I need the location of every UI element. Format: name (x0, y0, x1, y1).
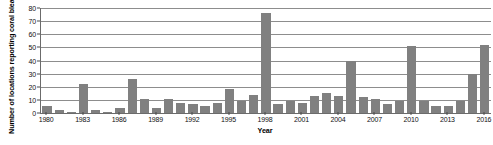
bar-slot (163, 8, 175, 113)
bar (346, 61, 355, 114)
bar (383, 104, 392, 113)
bar (200, 106, 209, 113)
bar-slot (199, 8, 211, 113)
bar-slot (442, 8, 454, 113)
bar (213, 103, 222, 114)
bar-slot (479, 8, 491, 113)
bar (431, 106, 440, 113)
y-tick-label: 60 (29, 31, 36, 38)
bar (103, 112, 112, 113)
bar-slot (187, 8, 199, 113)
bar (79, 84, 88, 113)
bar (249, 95, 258, 113)
bar-slot (454, 8, 466, 113)
bar (395, 101, 404, 113)
x-tick-label: 2001 (294, 116, 309, 123)
bar (419, 101, 428, 113)
bar-slot (77, 8, 89, 113)
bar-slot (430, 8, 442, 113)
bar-slot (406, 8, 418, 113)
bar (261, 13, 270, 113)
bar-slot (260, 8, 272, 113)
x-tick-mark (155, 112, 156, 115)
x-tick-mark (192, 112, 193, 115)
bar-slot (150, 8, 162, 113)
bar (444, 106, 453, 113)
bar (359, 97, 368, 113)
bar-slot (138, 8, 150, 113)
bar-slot (418, 8, 430, 113)
bar-slot (223, 8, 235, 113)
bar-slot (248, 8, 260, 113)
bar-slot (308, 8, 320, 113)
x-tick-label: 1983 (75, 116, 90, 123)
bar (298, 103, 307, 114)
bar-slot (345, 8, 357, 113)
bar-slot (272, 8, 284, 113)
x-tick-mark (46, 112, 47, 115)
y-tick-label: 10 (29, 96, 36, 103)
x-tick-mark (483, 112, 484, 115)
x-tick-label: 1980 (39, 116, 54, 123)
x-tick-label: 1995 (221, 116, 236, 123)
bar (225, 89, 234, 113)
bar (91, 110, 100, 113)
x-tick-mark (337, 112, 338, 115)
bar-slot (284, 8, 296, 113)
coral-bleaching-bar-chart: Number of locations reporting coral blea… (0, 0, 493, 145)
bar (237, 101, 246, 113)
bar (371, 99, 380, 113)
x-tick-mark (410, 112, 411, 115)
x-tick-mark (301, 112, 302, 115)
x-tick-label: 2010 (404, 116, 419, 123)
x-tick-label: 1992 (185, 116, 200, 123)
bar-slot (381, 8, 393, 113)
x-tick-label: 2007 (367, 116, 382, 123)
x-tick-label: 2016 (477, 116, 492, 123)
bar-slot (102, 8, 114, 113)
y-axis-title-label: Number of locations reporting coral blea… (9, 0, 18, 134)
bar-slot (175, 8, 187, 113)
bar (480, 45, 489, 113)
bar-slot (53, 8, 65, 113)
bar (188, 104, 197, 113)
y-tick-label: 30 (29, 70, 36, 77)
y-tick-label: 0 (32, 110, 36, 117)
bar (152, 108, 161, 113)
bar-slot (90, 8, 102, 113)
x-tick-label: 1998 (258, 116, 273, 123)
y-tick-label: 20 (29, 83, 36, 90)
x-tick-mark (374, 112, 375, 115)
bar-slot (394, 8, 406, 113)
bar (407, 46, 416, 113)
bar-slot (296, 8, 308, 113)
x-axis-tick-labels: 1980198319861989199219951998200120042007… (40, 114, 490, 126)
bar (286, 101, 295, 113)
x-tick-label: 2004 (331, 116, 346, 123)
bar-slot (126, 8, 138, 113)
x-tick-mark (265, 112, 266, 115)
bar-slot (65, 8, 77, 113)
bar-slot (357, 8, 369, 113)
bar-slot (236, 8, 248, 113)
plot-area (40, 8, 491, 114)
x-tick-label: 2013 (440, 116, 455, 123)
y-tick-label: 40 (29, 57, 36, 64)
bar-slot (369, 8, 381, 113)
bar-slot (211, 8, 223, 113)
bar (67, 112, 76, 113)
bars-layer (41, 8, 491, 113)
bar (310, 96, 319, 113)
bar (115, 108, 124, 113)
bar-slot (333, 8, 345, 113)
x-tick-mark (228, 112, 229, 115)
y-tick-label: 50 (29, 44, 36, 51)
bar (322, 93, 331, 113)
x-tick-mark (119, 112, 120, 115)
x-axis-title-label: Year (40, 126, 490, 135)
bar-slot (41, 8, 53, 113)
bar (176, 103, 185, 114)
bar (468, 74, 477, 113)
bar-slot (466, 8, 478, 113)
bar (456, 101, 465, 113)
